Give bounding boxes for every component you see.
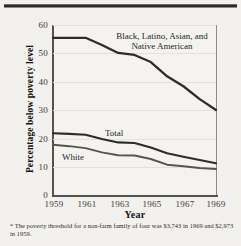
series-label-minority-line2: Native American xyxy=(131,41,192,51)
series-label-minority: Black, Latino, Asian, and Native America… xyxy=(104,31,220,51)
poverty-level-line-chart: 60 50 40 30 20 10 0 1959 1961 1963 1965 … xyxy=(0,0,241,246)
footnote-text: * The poverty threshold for a non-farm f… xyxy=(10,222,234,239)
series-label-minority-line1: Black, Latino, Asian, and xyxy=(116,31,207,41)
series-label-white: White xyxy=(62,152,106,162)
series-label-total: Total xyxy=(105,128,145,138)
